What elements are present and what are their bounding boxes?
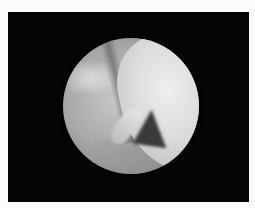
arthroscopic-view (63, 38, 199, 174)
